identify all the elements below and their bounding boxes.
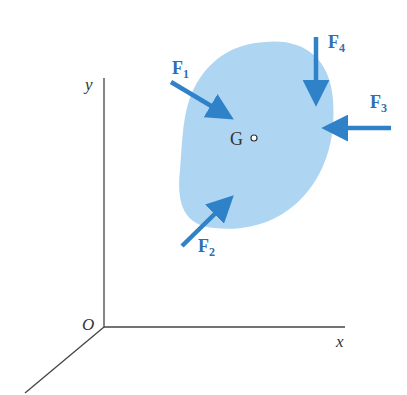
x-axis-label: x — [335, 332, 344, 351]
centroid-label: G — [230, 129, 243, 149]
centroid-marker — [251, 135, 257, 141]
origin-label: O — [82, 315, 94, 334]
force-label-f2: F2 — [198, 236, 215, 259]
force-label-f3: F3 — [370, 92, 387, 115]
z-axis — [25, 327, 104, 393]
force-label-f4: F4 — [328, 32, 345, 55]
y-axis-label: y — [83, 75, 93, 94]
force-label-f1: F1 — [172, 58, 189, 81]
force-diagram: y x O G F1 F2 F3 F4 — [0, 0, 407, 395]
rigid-body — [179, 41, 333, 228]
